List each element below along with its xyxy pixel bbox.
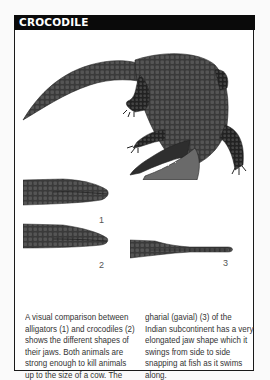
panel-title: CROCODILE [19, 16, 89, 29]
head-label-2: 2 [99, 260, 104, 270]
caption-line: along. [145, 370, 240, 380]
crocodile-head-illustration [23, 222, 113, 250]
caption-left-column: A visual comparison between alligators (… [25, 312, 120, 380]
caption-line: swings from side to side [145, 347, 240, 359]
panel-header: CROCODILE [14, 15, 255, 30]
caption-line: strong enough to kill animals [25, 358, 120, 370]
caption-line: shows the different shapes of [25, 335, 120, 347]
crocodile-fact-panel: CROCODILE [14, 15, 254, 371]
caption-line: gharial (gavial) (3) of the [145, 312, 240, 324]
caption-line: Indian subcontinent has a very [145, 324, 240, 336]
crocodile-full-body-illustration [15, 30, 255, 180]
caption-line: elongated jaw shape which it [145, 335, 240, 347]
caption-line: their jaws. Both animals are [25, 347, 120, 359]
caption-right-column: gharial (gavial) (3) of the Indian subco… [145, 312, 240, 380]
alligator-head-illustration [23, 176, 113, 208]
caption-line: alligators (1) and crocodiles (2) [25, 324, 120, 336]
head-label-3: 3 [223, 258, 228, 268]
caption-line: snapping at fish as it swims [145, 358, 240, 370]
caption-line: A visual comparison between [25, 312, 120, 324]
caption-line: up to the size of a cow. The [25, 370, 120, 380]
gharial-head-illustration [130, 238, 236, 260]
